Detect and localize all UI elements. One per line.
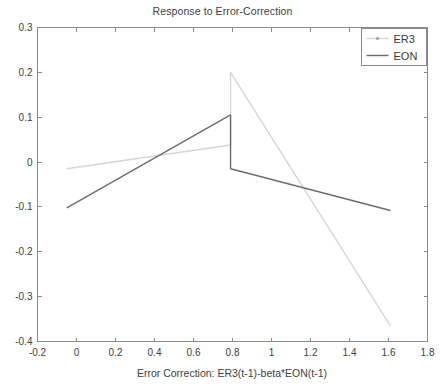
x-axis-title: Error Correction: ER3(t-1)-beta*EON(t-1) [137, 367, 327, 379]
y-tick-label: 0.3 [19, 22, 33, 33]
series-line-eon [231, 169, 391, 211]
y-tick-label: 0.2 [19, 67, 33, 78]
series-group [67, 72, 391, 325]
legend-label-eon[interactable]: EON [394, 50, 418, 62]
x-tick-label: 0.2 [109, 347, 123, 358]
chart-figure: Response to Error-Correction -0.200.20.4… [0, 0, 445, 386]
legend-marker-er3 [376, 37, 378, 39]
x-tick-label: 1 [269, 347, 275, 358]
legend-label-er3[interactable]: ER3 [394, 33, 415, 45]
x-tick-label: 1.8 [421, 347, 435, 358]
y-tick-label: -0.4 [15, 336, 33, 347]
y-tick-label: 0 [27, 157, 33, 168]
series-line-eon [67, 115, 231, 208]
series-line-er3 [67, 145, 231, 169]
x-tick-label: 0.6 [187, 347, 201, 358]
x-tick-label: 1.4 [343, 347, 357, 358]
y-tick-label: -0.1 [15, 201, 33, 212]
plot-canvas: -0.200.20.40.60.811.21.41.61.8 0.30.20.1… [0, 0, 445, 386]
x-tick-labels: -0.200.20.40.60.811.21.41.61.8 [29, 347, 435, 358]
x-tick-label: 0.8 [226, 347, 240, 358]
y-tick-label: -0.2 [15, 246, 33, 257]
x-tick-label: 1.2 [304, 347, 318, 358]
x-tick-label: -0.2 [29, 347, 47, 358]
y-tick-labels: 0.30.20.10-0.1-0.2-0.3-0.4 [15, 22, 33, 347]
y-tick-label: -0.3 [15, 291, 33, 302]
chart-legend[interactable]: ER3EON [362, 29, 427, 66]
series-line-er3 [231, 72, 391, 325]
x-tick-label: 0.4 [148, 347, 162, 358]
x-tick-label: 0 [74, 347, 80, 358]
y-tick-label: 0.1 [19, 112, 33, 123]
x-tick-label: 1.6 [382, 347, 396, 358]
